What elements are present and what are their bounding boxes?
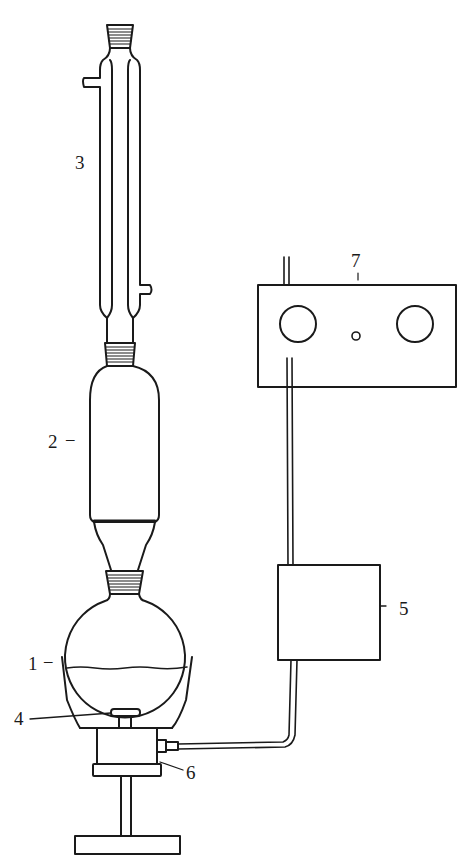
signal-cable xyxy=(178,660,297,749)
left-knob-icon xyxy=(280,306,316,342)
extraction-chamber xyxy=(90,366,159,570)
label-5: 5 xyxy=(399,599,409,618)
label-1-dash: – xyxy=(44,652,53,669)
label-1: 1 xyxy=(28,654,38,673)
label-2: 2 xyxy=(48,432,58,451)
connector-cable xyxy=(284,257,293,565)
right-knob-icon xyxy=(397,306,433,342)
heater-stirrer-base xyxy=(93,728,183,776)
label-2-dash: – xyxy=(66,430,75,447)
ground-joint-lower xyxy=(106,571,143,594)
indicator-light-icon xyxy=(352,332,360,340)
controller-box xyxy=(278,565,386,660)
ground-joint-upper xyxy=(105,330,135,366)
reflux-condenser xyxy=(83,25,152,330)
label-4: 4 xyxy=(14,709,24,728)
label-6: 6 xyxy=(186,763,196,782)
label-3: 3 xyxy=(75,153,85,172)
round-bottom-flask xyxy=(65,594,187,718)
label-7: 7 xyxy=(351,251,361,270)
support-stand xyxy=(75,776,180,854)
